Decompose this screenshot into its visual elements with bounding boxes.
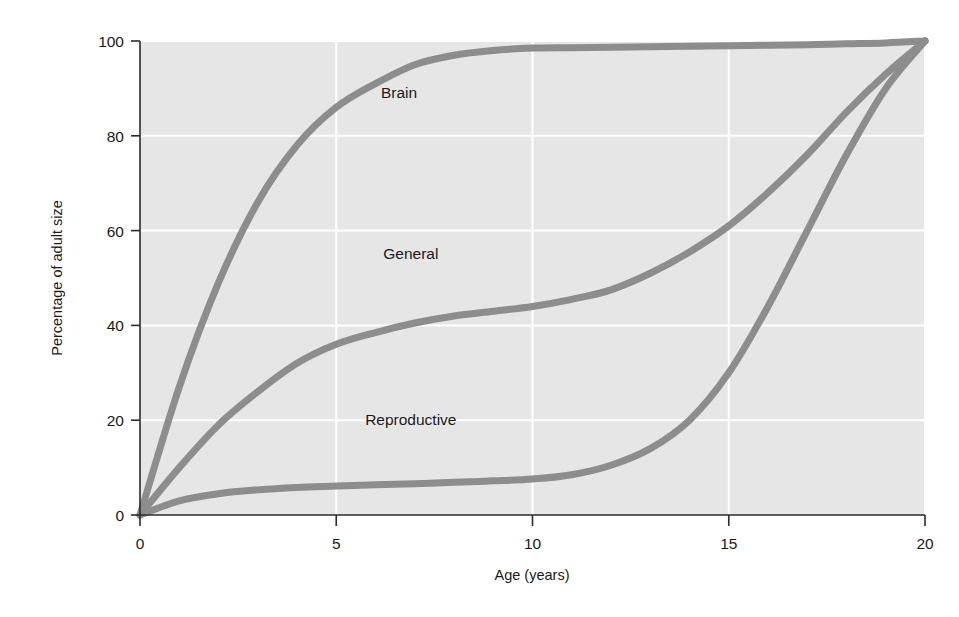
y-tick-label: 20	[107, 412, 125, 429]
x-tick-label: 0	[136, 535, 145, 552]
x-axis-title: Age (years)	[495, 567, 570, 583]
growth-curves-chart: 020406080100 05101520 Percentage of adul…	[0, 0, 959, 617]
x-tick-label: 20	[916, 535, 934, 552]
series-label-brain: Brain	[381, 84, 417, 101]
series-label-reproductive: Reproductive	[365, 411, 456, 428]
y-axis-title: Percentage of adult size	[49, 200, 65, 356]
x-tick-label: 15	[720, 535, 737, 552]
series-label-general: General	[383, 245, 438, 262]
y-tick-label: 40	[107, 317, 125, 334]
y-tick-label: 60	[107, 223, 125, 240]
x-tick-label: 5	[332, 535, 341, 552]
x-tick-label: 10	[524, 535, 542, 552]
y-tick-label: 100	[98, 33, 124, 50]
y-tick-label: 0	[115, 507, 124, 524]
figure-container: 020406080100 05101520 Percentage of adul…	[0, 0, 959, 617]
y-tick-label: 80	[107, 128, 125, 145]
